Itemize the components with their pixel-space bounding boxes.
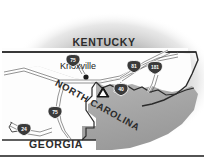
state-label-georgia: GEORGIA [29,138,83,150]
shield-number-i-75-south: 75 [52,109,58,115]
shield-number-i-24: 24 [21,126,27,132]
shield-number-i-75-north: 75 [70,57,76,63]
knoxville-city-dot [83,74,88,79]
map-canvas: Knoxville 75 81 181 40 [0,0,204,161]
shield-number-i-181: 181 [151,65,159,70]
shield-number-i-81: 81 [131,63,137,69]
regional-locator-map: Knoxville 75 81 181 40 [0,0,204,161]
state-label-kentucky: KENTUCKY [72,36,135,48]
shield-number-i-40: 40 [118,86,124,92]
